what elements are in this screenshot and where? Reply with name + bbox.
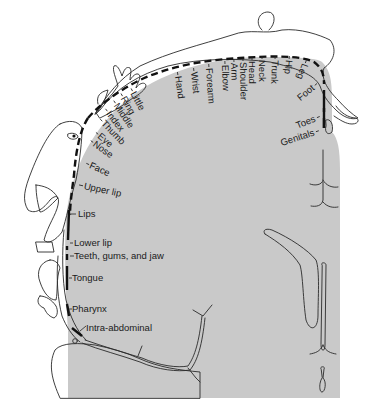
- homunculus-tongue: [38, 260, 60, 300]
- label-lips: Lips: [78, 208, 96, 219]
- label-trunk: Trunk: [269, 60, 281, 85]
- homunculus-teeth: [36, 242, 54, 252]
- label-teeth-gums-jaw: Teeth, gums, and jaw: [74, 250, 164, 261]
- homunculus-diagram: Little Ring Middle Index Thumb Eye Nose …: [0, 0, 374, 410]
- label-neck: Neck: [257, 60, 268, 82]
- homunculus-pharynx: [38, 296, 57, 318]
- label-wrist: Wrist: [189, 71, 202, 94]
- bar-lips: [68, 210, 69, 240]
- label-hip: Hip: [283, 59, 295, 74]
- label-tongue: Tongue: [72, 272, 103, 283]
- label-intra-abdominal: Intra-abdominal: [86, 322, 152, 333]
- cortex-region: [65, 57, 340, 400]
- label-pharynx: Pharynx: [72, 303, 107, 314]
- label-lower-lip: Lower lip: [74, 237, 112, 248]
- homunculus-lips: [36, 185, 58, 212]
- pupil: [72, 134, 75, 137]
- label-head: Head: [247, 61, 258, 84]
- homunculus-head: [258, 12, 274, 30]
